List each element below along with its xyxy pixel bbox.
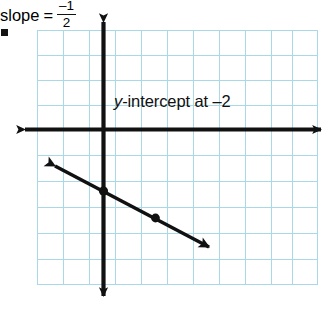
graph-figure: slope = –1 2 y-intercept at –2 bbox=[0, 0, 335, 311]
grid-lines bbox=[37, 30, 318, 285]
point-y-intercept bbox=[99, 186, 108, 195]
slope-fraction: –1 2 bbox=[57, 0, 76, 30]
intercept-variable: y bbox=[114, 92, 122, 110]
point-on-line bbox=[151, 214, 160, 223]
plotted-line bbox=[55, 166, 209, 247]
fraction-numerator: –1 bbox=[57, 0, 76, 13]
fraction-denominator: 2 bbox=[61, 16, 73, 30]
coordinate-plane bbox=[0, 0, 335, 311]
y-intercept-annotation: y-intercept at –2 bbox=[114, 93, 231, 110]
intercept-text: -intercept at –2 bbox=[122, 92, 230, 110]
